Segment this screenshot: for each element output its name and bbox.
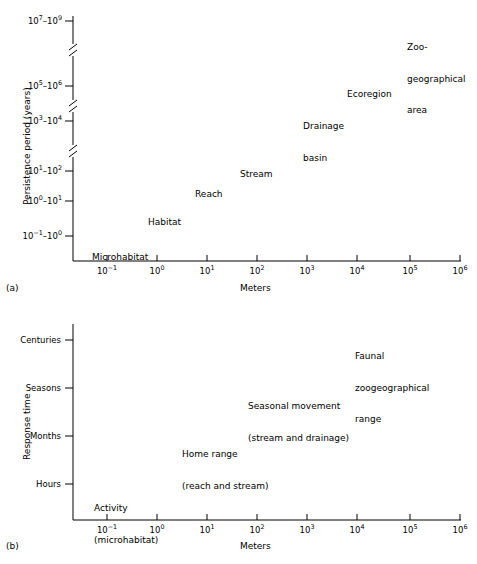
annotation-line: area [407,105,466,116]
annotation-microhabitat: Microhabitat [92,231,148,284]
axis-break-a-2 [69,100,77,112]
annotation-line: Microhabitat [92,252,148,263]
annotation-reach: Reach [195,168,223,221]
annotation-line: Stream [240,169,273,180]
x-tick-label-b-7: 106 [440,525,477,536]
annotation-line: Reach [195,189,223,200]
x-tick-label-b-2: 101 [187,525,227,536]
annotation-line: Faunal [355,351,429,362]
x-tick-label-a-7: 106 [440,266,477,277]
y-tick-label-b-1: Seasons [8,383,61,394]
y-tick-label-a-2: 103–104 [8,116,62,127]
annotation-line: Ecoregion [347,89,392,100]
figure-container: 107–109 105–106 103–104 101–102 100–101 … [0,0,477,564]
annotation-line: range [355,414,429,425]
annotation-line: (reach and stream) [182,481,268,492]
x-tick-label-b-5: 104 [337,525,377,536]
x-tick-label-a-5: 104 [337,266,377,277]
annotation-zoogeographical-area: Zoo- geographical area [407,21,466,137]
y-tick-label-b-2: Months [8,431,61,442]
panel-caption-a: (a) [6,283,19,294]
axis-break-a-3 [69,145,77,157]
panel-caption-b: (b) [6,541,19,552]
x-tick-label-a-3: 102 [237,266,277,277]
annotation-line: (stream and drainage) [248,433,349,444]
x-tick-label-b-3: 102 [237,525,277,536]
annotation-line: Habitat [148,217,181,228]
annotation-line: zoogeographical [355,383,429,394]
y-tick-label-a-5: 10−1–100 [8,231,62,242]
y-tick-label-b-0: Centuries [8,335,61,346]
annotation-stream: Stream [240,148,273,201]
y-axis-title-a: Persistence period (years) [22,87,32,205]
panel-a: 107–109 105–106 103–104 101–102 100–101 … [0,0,477,300]
x-tick-label-a-6: 105 [390,266,430,277]
panel-b: Centuries Seasons Months Hours 10−1 100 … [0,300,477,564]
x-axis-title-b: Meters [240,541,271,552]
annotation-activity-microhabitat: Activity (microhabitat) [94,482,158,564]
x-tick-label-b-4: 103 [287,525,327,536]
x-tick-label-a-4: 103 [287,266,327,277]
annotation-faunal-zoogeographical-range: Faunal zoogeographical range [355,330,429,446]
annotation-drainage-basin: Drainage basin [303,100,344,184]
annotation-line: Seasonal movement [248,401,349,412]
annotation-line: Zoo- [407,42,466,53]
annotation-line: (microhabitat) [94,535,158,546]
annotation-habitat: Habitat [148,196,181,249]
y-axis-title-b: Response time [22,394,32,460]
y-tick-label-a-3: 101–102 [8,166,62,177]
y-tick-label-a-0: 107–109 [8,16,62,27]
annotation-seasonal-movement: Seasonal movement (stream and drainage) [248,380,349,464]
annotation-line: Activity [94,503,158,514]
x-axis-title-a: Meters [240,283,271,294]
annotation-line: geographical [407,74,466,85]
annotation-line: basin [303,153,344,164]
x-tick-label-a-2: 101 [187,266,227,277]
y-tick-label-b-3: Hours [8,479,61,490]
x-tick-label-b-6: 105 [390,525,430,536]
axis-break-a-1 [69,44,77,56]
annotation-line: Drainage [303,121,344,132]
y-tick-label-a-1: 105–106 [8,81,62,92]
annotation-ecoregion: Ecoregion [347,68,392,121]
y-tick-label-a-4: 100–101 [8,196,62,207]
panel-a-axes [0,0,477,300]
